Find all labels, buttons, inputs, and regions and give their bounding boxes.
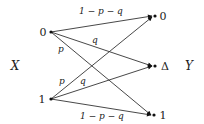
output-node-0 <box>153 14 156 17</box>
output-node-1 <box>152 113 155 116</box>
output-variable-label: Y <box>185 59 194 73</box>
edge-0-to-delta <box>51 32 152 66</box>
output-label-0: 0 <box>160 10 167 23</box>
edge-label-1-to-delta: q <box>80 76 86 86</box>
output-label-delta: Δ <box>161 60 169 73</box>
input-node-0 <box>49 30 52 33</box>
output-label-1: 1 <box>160 109 167 122</box>
channel-diagram: X Y 0 1 0 Δ 1 1 − p − q q p p q 1 − p − … <box>0 0 204 124</box>
output-node-delta <box>153 64 156 67</box>
input-variable-label: X <box>10 59 20 73</box>
input-label-0: 0 <box>40 26 47 39</box>
edge-label-1-to-0: p <box>59 76 65 86</box>
edge-0-to-1 <box>51 32 151 115</box>
edge-label-0-to-delta: q <box>92 35 98 45</box>
input-node-1 <box>49 97 52 100</box>
edge-label-0-to-1: p <box>58 44 64 54</box>
edge-label-1-to-1: 1 − p − q <box>80 111 124 121</box>
input-label-1: 1 <box>39 93 46 106</box>
edge-1-to-delta <box>51 66 152 99</box>
edge-label-0-to-0: 1 − p − q <box>79 6 123 16</box>
